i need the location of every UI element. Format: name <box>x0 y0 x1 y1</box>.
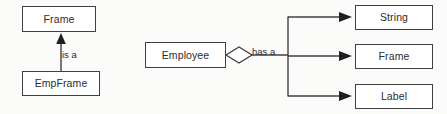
node-employee[interactable]: Employee <box>145 42 226 68</box>
node-empframe-label: EmpFrame <box>35 78 88 89</box>
edge-label-is-a: is a <box>62 50 77 60</box>
inheritance-arrowhead-icon <box>56 33 66 44</box>
aggregation-diamond-icon <box>226 47 252 63</box>
node-string-label: String <box>380 12 408 23</box>
node-label-attribute-label: Label <box>381 91 407 102</box>
uml-diagram-canvas: Frame EmpFrame Employee String Frame Lab… <box>0 0 447 114</box>
arrowhead-frame-icon <box>339 51 352 61</box>
node-frame-attribute-label: Frame <box>379 51 410 62</box>
node-label-attribute[interactable]: Label <box>355 84 433 109</box>
open-diamond-shape <box>226 47 252 63</box>
branch-to-string <box>288 12 352 22</box>
node-frame-attribute[interactable]: Frame <box>355 44 433 69</box>
node-empframe[interactable]: EmpFrame <box>22 71 100 96</box>
branch-to-label <box>288 91 352 101</box>
branch-to-frame <box>288 51 352 61</box>
edge-label-has-a: has a <box>252 47 275 57</box>
arrowhead-string-icon <box>339 12 352 22</box>
arrowhead-label-icon <box>339 91 352 101</box>
node-string[interactable]: String <box>355 5 433 30</box>
node-frame-superclass-label: Frame <box>44 14 75 25</box>
node-frame-superclass[interactable]: Frame <box>22 6 96 32</box>
node-employee-label: Employee <box>162 50 210 61</box>
